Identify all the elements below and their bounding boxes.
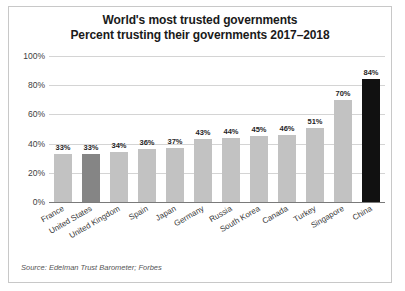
bar-value-label: 84% (363, 69, 378, 77)
bar-value-label: 70% (335, 90, 350, 98)
chart-title-block: World's most trusted governments Percent… (9, 13, 391, 43)
bar-group[interactable]: 43% (194, 56, 212, 202)
bar-group[interactable]: 46% (278, 56, 296, 202)
x-axis-tick-label: Canada (261, 204, 290, 226)
y-axis-tick-label: 100% (23, 52, 45, 60)
bar[interactable] (362, 79, 380, 202)
bar-value-label: 43% (195, 129, 210, 137)
bar-group[interactable]: 34% (110, 56, 128, 202)
plot-area: 0%20%40%60%80%100% 33%33%34%36%37%43%44%… (49, 56, 385, 202)
y-axis-tick-label: 20% (28, 169, 45, 177)
x-axis-tick-label: United Kingdom (68, 204, 122, 240)
bar-value-label: 46% (279, 125, 294, 133)
source-note: Source: Edelman Trust Barometer; Forbes (21, 263, 162, 272)
bar[interactable] (250, 136, 268, 202)
bar-value-label: 34% (111, 142, 126, 150)
bar-group[interactable]: 33% (82, 56, 100, 202)
y-axis-tick-label: 60% (28, 110, 45, 118)
bar-group[interactable]: 37% (166, 56, 184, 202)
bar-group[interactable]: 33% (54, 56, 72, 202)
bar[interactable] (278, 135, 296, 202)
bar-value-label: 44% (223, 128, 238, 136)
bar-value-label: 37% (167, 138, 182, 146)
bar-value-label: 51% (307, 118, 322, 126)
bar[interactable] (334, 100, 352, 202)
bar-group[interactable]: 84% (362, 56, 380, 202)
chart-subtitle: Percent trusting their governments 2017–… (9, 28, 391, 43)
bar-group[interactable]: 51% (306, 56, 324, 202)
bar-group[interactable]: 45% (250, 56, 268, 202)
bar[interactable] (166, 148, 184, 202)
bar-value-label: 45% (251, 126, 266, 134)
bar[interactable] (306, 128, 324, 202)
y-axis-tick-label: 80% (28, 81, 45, 89)
y-axis-tick-label: 0% (33, 198, 45, 206)
y-axis-tick-label: 40% (28, 140, 45, 148)
bar-value-label: 36% (139, 139, 154, 147)
bar[interactable] (138, 149, 156, 202)
bar[interactable] (54, 154, 72, 202)
bar-group[interactable]: 44% (222, 56, 240, 202)
bar-group[interactable]: 70% (334, 56, 352, 202)
bar[interactable] (110, 152, 128, 202)
chart-title: World's most trusted governments (9, 13, 391, 28)
chart-card: World's most trusted governments Percent… (8, 6, 392, 283)
bar-group[interactable]: 36% (138, 56, 156, 202)
bar[interactable] (222, 138, 240, 202)
bar-value-label: 33% (83, 144, 98, 152)
x-axis-tick-label: Spain (127, 204, 149, 222)
bars-layer: 33%33%34%36%37%43%44%45%46%51%70%84% (49, 56, 385, 202)
bar[interactable] (194, 139, 212, 202)
bar-value-label: 33% (55, 144, 70, 152)
x-axis-tick-label: China (351, 204, 374, 222)
bar[interactable] (82, 154, 100, 202)
x-axis-labels: FranceUnited StatesUnited KingdomSpainJa… (49, 204, 385, 264)
x-axis-tick-label: Germany (173, 204, 206, 228)
